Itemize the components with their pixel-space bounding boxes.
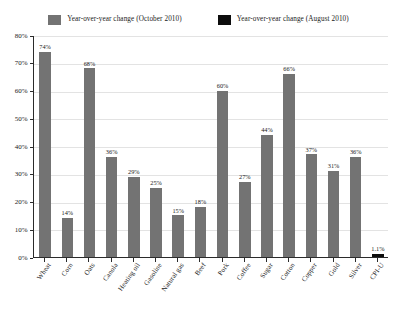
bar-slot: 60% — [217, 36, 229, 257]
chart-legend: Year-over-year change (October 2010)Year… — [0, 11, 397, 29]
bar[interactable] — [217, 91, 229, 258]
bar-slot: 27% — [239, 36, 251, 257]
y-axis-tick-label: 60% — [15, 88, 28, 95]
x-axis-label: Wheat — [36, 262, 52, 281]
bar-value-label: 37% — [306, 147, 318, 153]
bar-slot: 37% — [306, 36, 318, 257]
y-axis-tick-label: 40% — [15, 144, 28, 151]
y-axis: 0%10%20%30%40%50%60%70%80% — [0, 36, 33, 258]
x-axis-label: Sugar — [259, 262, 274, 280]
bar-value-label: 44% — [261, 127, 273, 133]
bar-slot: 31% — [328, 36, 340, 257]
y-axis-tick-label: 50% — [15, 116, 28, 123]
x-axis-label: Heating oil — [117, 262, 141, 293]
y-axis-tick: 20% — [15, 198, 33, 208]
bar-slot: 14% — [62, 36, 74, 257]
bar-slot: 36% — [106, 36, 118, 257]
bar-slot: 29% — [128, 36, 140, 257]
bar-value-label: 27% — [239, 174, 251, 180]
y-axis-tick: 10% — [15, 225, 33, 235]
x-axis-label: Natural gas — [161, 262, 186, 293]
bar-slot: 36% — [350, 36, 362, 257]
bars-layer: 74%14%68%36%29%25%15%18%60%27%44%66%37%3… — [34, 36, 388, 257]
bar-value-label: 29% — [128, 169, 140, 175]
x-axis-label: CPI-U — [369, 262, 386, 281]
x-axis-labels: WheatCornOatsCanolaHeating oilGasolineNa… — [33, 262, 388, 320]
y-axis-tick-label: 80% — [15, 33, 28, 40]
bar-value-label: 25% — [150, 180, 162, 186]
bar[interactable] — [328, 171, 340, 257]
y-axis-tick-label: 10% — [15, 227, 28, 234]
y-axis-tick-label: 30% — [15, 171, 28, 178]
bar-slot: 15% — [172, 36, 184, 257]
y-axis-tick: 50% — [15, 114, 33, 124]
bar[interactable] — [261, 135, 273, 257]
legend-swatch-icon — [218, 15, 231, 25]
y-axis-tick: 70% — [15, 59, 33, 69]
bar[interactable] — [84, 68, 96, 257]
x-axis-label: Beef — [195, 262, 209, 277]
y-axis-tick-label: 70% — [15, 60, 28, 67]
y-axis-tick: 30% — [15, 170, 33, 180]
legend-swatch-icon — [48, 15, 61, 25]
legend-label: Year-over-year change (October 2010) — [67, 16, 182, 23]
bar[interactable] — [62, 218, 74, 257]
legend-entry[interactable]: Year-over-year change (August 2010) — [218, 15, 349, 25]
legend-label: Year-over-year change (August 2010) — [237, 16, 349, 23]
bar-slot: 25% — [150, 36, 162, 257]
bar-chart: Year-over-year change (October 2010)Year… — [0, 0, 397, 320]
x-axis-label: Coffee — [236, 262, 253, 282]
bar[interactable] — [306, 154, 318, 257]
bar-value-label: 60% — [217, 83, 229, 89]
bar[interactable] — [172, 215, 184, 257]
bar-value-label: 15% — [172, 208, 184, 214]
bar-value-label: 36% — [350, 149, 362, 155]
legend-entry[interactable]: Year-over-year change (October 2010) — [48, 15, 182, 25]
bar[interactable] — [195, 207, 207, 257]
y-axis-tick: 80% — [15, 31, 33, 41]
bar-slot: 18% — [195, 36, 207, 257]
bar-value-label: 74% — [39, 44, 51, 50]
bar-value-label: 66% — [283, 66, 295, 72]
y-axis-tick: 40% — [15, 142, 33, 152]
x-axis-label: Silver — [348, 262, 364, 280]
bar-slot: 68% — [84, 36, 96, 257]
x-axis-label: Gasoline — [143, 262, 163, 287]
x-axis-label: Gold — [327, 262, 341, 278]
x-axis-label: Canola — [102, 262, 119, 283]
bar-slot: 74% — [39, 36, 51, 257]
y-axis-tick: 60% — [15, 87, 33, 97]
y-axis-tick-label: 20% — [15, 199, 28, 206]
bar-value-label: 1.1% — [371, 246, 384, 252]
x-axis-label: Copper — [301, 262, 319, 283]
bar-slot: 44% — [261, 36, 273, 257]
bar-value-label: 31% — [328, 163, 340, 169]
x-axis-label: Oats — [84, 262, 97, 277]
x-axis-label: Corn — [61, 262, 75, 278]
bar-slot: 66% — [283, 36, 295, 257]
bar[interactable] — [150, 188, 162, 257]
bar[interactable] — [372, 254, 384, 257]
bar[interactable] — [128, 177, 140, 257]
bar[interactable] — [239, 182, 251, 257]
bar[interactable] — [106, 157, 118, 257]
x-axis-label: Pork — [217, 262, 231, 277]
bar[interactable] — [39, 52, 51, 257]
x-axis-label: Cotton — [280, 262, 297, 282]
bar[interactable] — [350, 157, 362, 257]
y-axis-tick: 0% — [18, 253, 33, 263]
bar-value-label: 68% — [84, 61, 96, 67]
plot-area: 74%14%68%36%29%25%15%18%60%27%44%66%37%3… — [33, 36, 388, 258]
bar-value-label: 36% — [106, 149, 118, 155]
y-axis-tick-label: 0% — [18, 255, 27, 262]
bar-value-label: 18% — [195, 199, 207, 205]
bar[interactable] — [283, 74, 295, 257]
bar-value-label: 14% — [61, 210, 73, 216]
bar-slot: 1.1% — [372, 36, 384, 257]
